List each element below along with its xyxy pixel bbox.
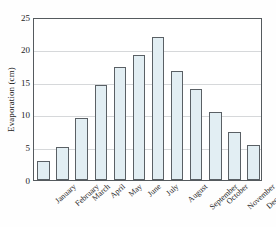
- bar-march: [75, 118, 88, 180]
- bar-july: [152, 37, 165, 180]
- bar-slot: [95, 19, 108, 180]
- y-tick-label: 15: [2, 79, 30, 88]
- x-tick-label: April: [108, 182, 127, 200]
- bar-june: [133, 55, 146, 180]
- bar-slot: [171, 19, 184, 180]
- bar-slot: [190, 19, 203, 180]
- bar-december: [247, 145, 260, 180]
- bar-series: [34, 19, 261, 180]
- bar-slot: [247, 19, 260, 180]
- plot-area: [33, 18, 262, 181]
- y-tick-label: 0: [2, 177, 30, 186]
- bar-january: [37, 161, 50, 180]
- bar-november: [228, 132, 241, 180]
- x-tick-label: July: [164, 182, 180, 198]
- bar-april: [95, 85, 108, 180]
- y-tick-label: 20: [2, 46, 30, 55]
- bar-slot: [152, 19, 165, 180]
- x-tick-label: June: [146, 182, 163, 199]
- y-tick-label: 25: [2, 14, 30, 23]
- bar-slot: [228, 19, 241, 180]
- bar-august: [171, 71, 184, 180]
- x-tick-label: August: [186, 182, 209, 204]
- y-axis-tick-labels: 0510152025: [0, 18, 30, 181]
- bar-slot: [114, 19, 127, 180]
- bar-october: [209, 112, 222, 180]
- y-tick-label: 5: [2, 144, 30, 153]
- evaporation-bar-chart: Evaporation (cm) 0510152025 JanuaryFebru…: [0, 0, 276, 227]
- bar-february: [56, 147, 69, 180]
- y-tick-label: 10: [2, 111, 30, 120]
- bar-september: [190, 89, 203, 180]
- x-tick-label: May: [127, 182, 144, 199]
- bar-slot: [75, 19, 88, 180]
- bar-slot: [133, 19, 146, 180]
- bar-slot: [209, 19, 222, 180]
- bar-may: [114, 67, 127, 180]
- x-axis-tick-labels: JanuaryFebruaryMarchAprilMayJuneJulyAugu…: [33, 182, 262, 227]
- bar-slot: [56, 19, 69, 180]
- bar-slot: [37, 19, 50, 180]
